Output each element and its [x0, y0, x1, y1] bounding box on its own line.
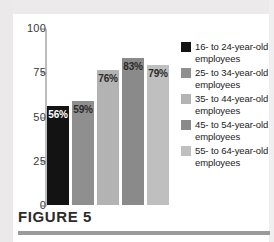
figure-container: 0255075100 56%59%76%83%79% 16- to 24-yea…	[0, 0, 274, 242]
y-axis-tick-label: 50	[20, 112, 46, 123]
bar[interactable]	[47, 106, 69, 205]
legend-swatch	[181, 94, 191, 104]
legend-label: 55- to 64-year-old employees	[195, 145, 273, 168]
bar-slot[interactable]: 79%	[147, 29, 169, 205]
bar-slot[interactable]: 83%	[122, 29, 144, 205]
legend-label: 16- to 24-year-old employees	[195, 41, 273, 64]
legend-item[interactable]: 45- to 54-year-old employees	[181, 119, 273, 142]
legend-item[interactable]: 25- to 34-year-old employees	[181, 67, 273, 90]
legend-swatch	[181, 120, 191, 130]
bar-slot[interactable]: 76%	[97, 29, 119, 205]
bar-slot[interactable]: 56%	[47, 29, 69, 205]
bar-value-label: 83%	[122, 61, 144, 72]
legend-item[interactable]: 55- to 64-year-old employees	[181, 145, 273, 168]
bar-slot[interactable]: 59%	[72, 29, 94, 205]
y-axis-tick-label-wrap: 50	[10, 112, 46, 123]
bar[interactable]	[147, 65, 169, 205]
bar[interactable]	[97, 70, 119, 205]
bar[interactable]	[72, 101, 94, 205]
legend-label: 45- to 54-year-old employees	[195, 119, 273, 142]
legend-swatch	[181, 42, 191, 52]
y-axis-tick-label-wrap: 100	[10, 23, 46, 34]
y-axis-tick-label-wrap: 25	[10, 156, 46, 167]
bar-value-label: 56%	[47, 109, 69, 120]
y-axis-tick-label: 75	[20, 67, 46, 78]
caption-rule	[18, 231, 270, 235]
figure-caption: FIGURE 5	[18, 208, 92, 225]
legend-swatch	[181, 146, 191, 156]
y-axis-tick-label: 25	[20, 156, 46, 167]
legend-label: 25- to 34-year-old employees	[195, 67, 273, 90]
legend-swatch	[181, 68, 191, 78]
y-axis-tick-label-wrap: 75	[10, 67, 46, 78]
bar-value-label: 76%	[97, 73, 119, 84]
legend-item[interactable]: 35- to 44-year-old employees	[181, 93, 273, 116]
bar[interactable]	[122, 58, 144, 205]
bar-value-label: 59%	[72, 104, 94, 115]
legend-label: 35- to 44-year-old employees	[195, 93, 273, 116]
chart-legend: 16- to 24-year-old employees25- to 34-ye…	[181, 41, 273, 171]
legend-item[interactable]: 16- to 24-year-old employees	[181, 41, 273, 64]
bar-value-label: 79%	[147, 68, 169, 79]
y-axis-tick-label: 100	[20, 23, 46, 34]
bar-series: 56%59%76%83%79%	[47, 29, 171, 205]
